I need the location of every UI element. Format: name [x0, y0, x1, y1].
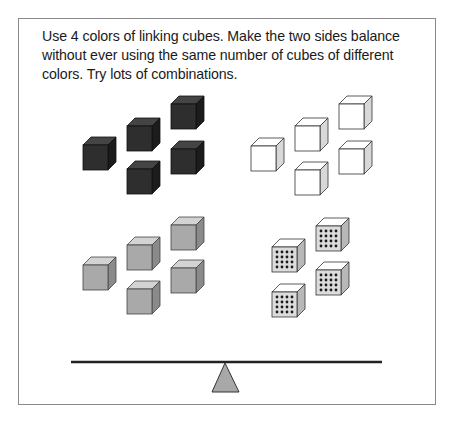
grey-cube	[83, 257, 116, 290]
cube-groups	[83, 96, 372, 317]
dark-cube	[171, 96, 204, 129]
white-cube	[251, 138, 284, 171]
grey-cube	[171, 260, 204, 293]
white-cubes	[251, 96, 372, 195]
dark-cube	[127, 118, 160, 151]
dotted-cube	[272, 284, 305, 317]
dotted-cube	[272, 239, 305, 272]
white-cube	[295, 118, 328, 151]
white-cube	[339, 141, 372, 174]
dotted-cubes	[272, 218, 349, 317]
dotted-cube	[316, 262, 349, 295]
grey-cubes	[83, 217, 204, 314]
dotted-cube	[316, 218, 349, 251]
dark-cube	[171, 141, 204, 174]
white-cube	[295, 162, 328, 195]
dark-cube	[83, 137, 116, 170]
fulcrum-triangle	[212, 363, 239, 392]
dark-cubes	[83, 96, 204, 194]
white-cube	[339, 96, 372, 129]
balance-scene	[0, 0, 456, 424]
dark-cube	[127, 161, 160, 194]
grey-cube	[127, 281, 160, 314]
grey-cube	[171, 217, 204, 250]
grey-cube	[127, 237, 160, 270]
